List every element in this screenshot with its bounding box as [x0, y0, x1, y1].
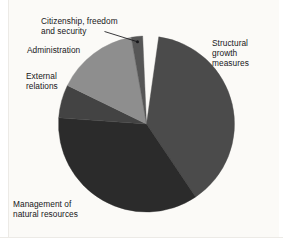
leader-line-endpoint-dot	[136, 40, 139, 43]
slice-label-management-of-natural-resources: Management of natural resources	[13, 199, 123, 219]
pie-chart-figure: Citizenship, freedom and security Admini…	[0, 0, 283, 245]
slice-label-structural-growth-measures: Structural growth measures	[212, 38, 278, 69]
slice-label-external-relations: External relations	[26, 71, 86, 91]
slice-label-citizenship-freedom-and-security: Citizenship, freedom and security	[41, 16, 163, 36]
pie-slice-group	[58, 36, 234, 212]
slice-label-administration: Administration	[27, 45, 123, 55]
